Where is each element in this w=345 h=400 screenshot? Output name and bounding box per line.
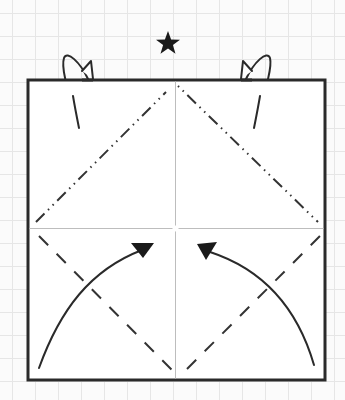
star-icon (156, 31, 180, 54)
origami-diagram-canvas: origami-fold-diagram (0, 0, 345, 400)
center-gap (173, 226, 179, 232)
origami-diagram (0, 0, 345, 400)
